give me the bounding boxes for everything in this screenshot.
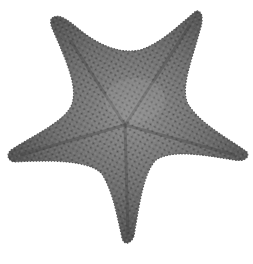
starfish-body — [0, 0, 253, 264]
starfish-image — [0, 0, 253, 264]
starfish-photo: starfish — [0, 0, 253, 264]
